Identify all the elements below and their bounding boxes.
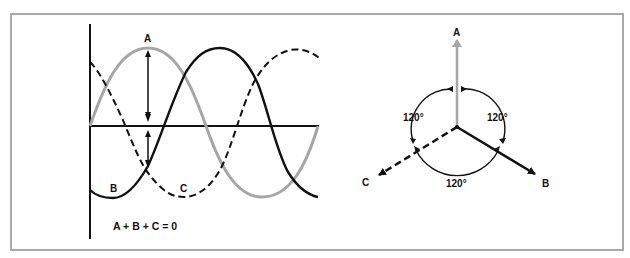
angle-arc-bc: [416, 150, 498, 176]
wave-label-b: B: [110, 183, 117, 194]
angle-label-ca: 120°: [403, 112, 424, 123]
sum-equation: A + B + C = 0: [113, 220, 177, 232]
waveform-graph: A B C A + B + C = 0: [90, 24, 319, 239]
phasor-label-b: B: [542, 178, 549, 189]
wave-label-c: C: [180, 183, 187, 194]
wave-label-a: A: [144, 33, 151, 44]
phasor-label-c: C: [362, 177, 369, 188]
angle-label-bc: 120°: [446, 178, 467, 189]
three-phase-diagram: A B C A + B + C = 0 A B C 120° 120° 120°: [0, 0, 630, 258]
phasor-diagram: A B C 120° 120° 120°: [362, 27, 549, 189]
angle-label-ab: 120°: [487, 112, 508, 123]
phasor-label-a: A: [453, 27, 460, 38]
